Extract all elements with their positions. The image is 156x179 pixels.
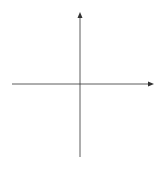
figure bbox=[0, 0, 156, 179]
y-axis-arrow-icon bbox=[78, 12, 83, 18]
x-axis bbox=[12, 82, 154, 87]
x-axis-arrow-icon bbox=[148, 82, 154, 87]
y-axis bbox=[78, 12, 83, 157]
